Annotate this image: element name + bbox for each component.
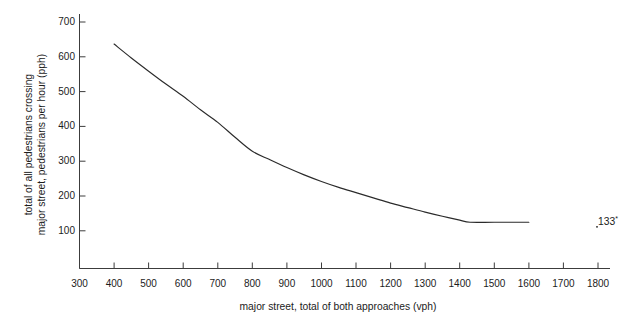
y-tick-label-300: 300: [33, 155, 75, 166]
x-axis-ticks: [80, 263, 599, 269]
y-tick-label-500: 500: [33, 86, 75, 97]
footnote-asterisk-icon: *: [615, 215, 618, 222]
plateau-value-text: 133: [598, 216, 615, 227]
y-tick-label-400: 400: [33, 120, 75, 131]
y-tick-label-600: 600: [33, 51, 75, 62]
y-axis-ticks: [80, 22, 86, 231]
plateau-value-annotation: 133*: [598, 216, 618, 227]
data-series-line: [114, 44, 529, 222]
x-axis-title: major street, total of both approaches (…: [79, 301, 597, 312]
y-tick-label-700: 700: [33, 16, 75, 27]
plot-area: [0, 0, 623, 324]
y-tick-label-100: 100: [33, 225, 75, 236]
y-tick-label-200: 200: [33, 190, 75, 201]
pedestrian-volume-chart: total of all pedestrians crossing major …: [0, 0, 623, 324]
x-tick-label-1800: 1800: [578, 278, 618, 289]
